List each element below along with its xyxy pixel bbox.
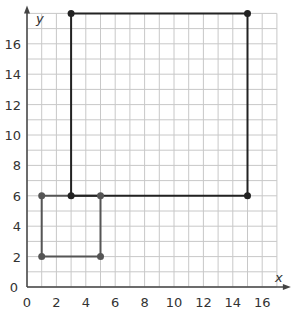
- vertex-point: [38, 192, 45, 199]
- x-tick-label: 8: [140, 295, 148, 310]
- coordinate-plane: 02468101214160246810121416 x y: [0, 0, 301, 320]
- vertex-point: [68, 10, 75, 17]
- tick-labels: 02468101214160246810121416: [4, 37, 270, 310]
- x-tick-label: 2: [52, 295, 60, 310]
- grid-lines: [27, 13, 277, 287]
- vertex-point: [244, 192, 251, 199]
- axes: [24, 5, 291, 290]
- y-axis-arrow-icon: [24, 5, 30, 13]
- x-tick-label: 0: [23, 295, 31, 310]
- x-tick-label: 14: [225, 295, 242, 310]
- x-tick-label: 6: [111, 295, 119, 310]
- y-tick-label: 12: [4, 98, 21, 113]
- vertex-point: [68, 192, 75, 199]
- y-axis-label: y: [35, 11, 44, 26]
- y-tick-label: 2: [13, 250, 21, 265]
- y-tick-label: 8: [13, 158, 21, 173]
- x-axis-arrow-icon: [283, 284, 291, 290]
- vertex-point: [244, 10, 251, 17]
- vertex-point: [38, 253, 45, 260]
- y-tick-label: 10: [4, 128, 21, 143]
- y-tick-label: 0: [10, 280, 18, 295]
- x-tick-label: 10: [166, 295, 183, 310]
- x-tick-label: 16: [254, 295, 271, 310]
- y-tick-label: 6: [13, 189, 21, 204]
- y-tick-label: 4: [13, 219, 21, 234]
- vertex-point: [97, 253, 104, 260]
- vertex-point: [97, 192, 104, 199]
- y-tick-label: 14: [4, 67, 21, 82]
- x-tick-label: 4: [82, 295, 90, 310]
- y-tick-label: 16: [4, 37, 21, 52]
- x-axis-label: x: [274, 270, 283, 285]
- x-tick-label: 12: [195, 295, 212, 310]
